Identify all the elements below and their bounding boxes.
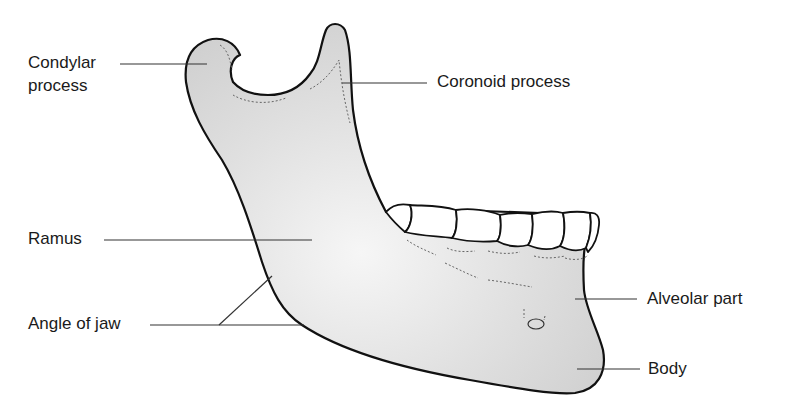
label-ramus: Ramus [28,228,82,250]
label-angle-of-jaw: Angle of jaw [28,313,121,335]
tooth-premolar-1 [528,212,564,249]
label-condylar-process-line1: Condylar [28,52,96,74]
tooth-canine [560,212,591,250]
label-coronoid-process: Coronoid process [437,71,570,93]
label-condylar-process-line2: process [28,75,88,97]
label-alveolar-part: Alveolar part [647,288,742,310]
tooth-premolar-2 [497,213,533,246]
mandible-diagram [0,0,787,418]
leader-angle-diagonal [219,276,272,325]
tooth-molar-1 [452,209,501,241]
tooth-molar-2 [405,205,457,238]
label-body: Body [648,358,687,380]
